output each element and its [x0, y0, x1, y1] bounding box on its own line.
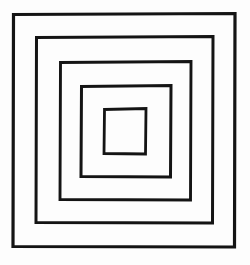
- concentric-squares-figure: [0, 0, 250, 265]
- figure-canvas: [0, 0, 250, 265]
